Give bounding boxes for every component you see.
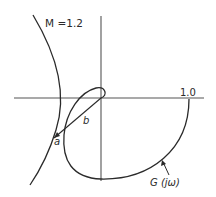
polar-plot: M =1.2 1.0 b a G (jω) (0, 0, 216, 197)
m-circle-arc (30, 15, 61, 185)
g-jw-curve (64, 88, 189, 179)
real-tick-label: 1.0 (180, 87, 196, 98)
g-jw-label: G (jω) (150, 177, 180, 188)
diagram-canvas: M =1.2 1.0 b a G (jω) (0, 0, 216, 197)
point-b-label: b (83, 115, 89, 126)
m-circle-label: M =1.2 (45, 17, 83, 29)
g-jw-pointer-arrowhead (161, 160, 166, 166)
point-a-label: a (54, 136, 60, 147)
